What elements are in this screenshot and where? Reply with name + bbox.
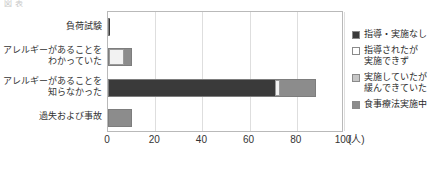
stacked-bar[interactable] [108,109,132,127]
bar-segment[interactable] [124,49,130,65]
chart-figure: 図表 負荷試験アレルギーがあることを わかっていたアレルギーがあることを 知らな… [0,0,446,170]
gridline [344,12,345,131]
stacked-bar[interactable] [108,18,110,36]
plot-area [107,11,343,132]
legend-item[interactable]: 実施していたが 緩んできていた [352,72,446,94]
bar-segment[interactable] [109,110,131,126]
legend-label: 食事療法実施中 [364,99,427,110]
legend-swatch-icon [352,31,360,39]
legend-swatch-icon [352,74,360,82]
legend-item[interactable]: 食事療法実施中 [352,99,446,110]
bar-row [108,42,344,72]
stacked-bar[interactable] [108,79,316,97]
x-axis-tick-label: 40 [181,134,221,146]
legend-label: 指導・実施なし [364,29,427,40]
legend-swatch-icon [352,101,360,109]
stacked-bar[interactable] [108,48,132,66]
legend-item[interactable]: 指導・実施なし [352,29,446,40]
clipped-caption-strip: 図表 [4,0,304,7]
y-axis-tick-label: 負荷試験 [0,21,102,32]
bar-segment[interactable] [109,80,275,96]
x-axis-tick-label: 80 [276,134,316,146]
legend-swatch-icon [352,47,360,55]
x-axis-tick-label: 20 [134,134,174,146]
bar-row [108,73,344,103]
legend-label: 指導されたが 実施できず [364,45,418,67]
bar-row [108,103,344,133]
chart-legend: 指導・実施なし指導されたが 実施できず実施していたが 緩んできていた食事療法実施… [352,29,446,115]
x-axis-unit-label: (人) [348,134,365,146]
bar-row [108,12,344,42]
x-axis-tick-label: 0 [87,134,127,146]
y-axis-tick-label: アレルギーがあることを 知らなかった [0,76,102,98]
bar-segment[interactable] [280,80,315,96]
legend-item[interactable]: 指導されたが 実施できず [352,45,446,67]
y-axis-tick-label: 過失および事故 [0,111,102,122]
legend-label: 実施していたが 緩んできていた [364,72,427,94]
bar-segment[interactable] [109,49,124,65]
x-axis-tick-label: 60 [229,134,269,146]
y-axis-tick-label: アレルギーがあることを わかっていた [0,45,102,67]
